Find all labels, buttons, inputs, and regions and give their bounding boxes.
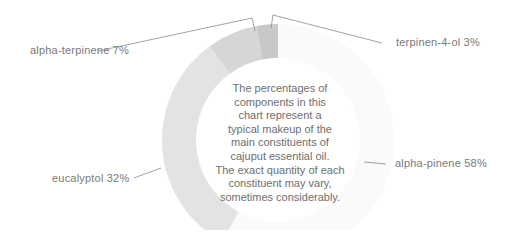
label-alpha-terpinene: alpha-terpinene 7% — [30, 44, 129, 56]
label-eucalyptol: eucalyptol 32% — [52, 172, 129, 184]
center-note-line: components in this — [208, 96, 352, 110]
center-note-line: chart represent a — [208, 109, 352, 123]
center-note-line: The percentages of — [208, 82, 352, 96]
label-alpha-pinene: alpha-pinene 58% — [395, 157, 487, 169]
leader-line-eucalyptol — [134, 168, 161, 178]
center-note-line: constituent may vary, — [208, 177, 352, 191]
center-note-line: main constituents of — [208, 136, 352, 150]
center-note: The percentages of components in this ch… — [208, 82, 352, 204]
center-note-line: typical makeup of the — [208, 123, 352, 137]
center-note-line: The exact quantity of each — [208, 164, 352, 178]
center-note-line: sometimes considerably. — [208, 191, 352, 205]
label-terpinen-4-ol: terpinen-4-ol 3% — [396, 36, 480, 48]
center-note-line: cajuput essential oil. — [208, 150, 352, 164]
